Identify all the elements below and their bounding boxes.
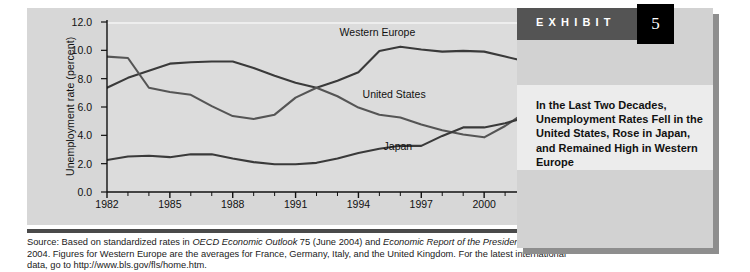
exhibit-number: 5 — [637, 4, 674, 44]
source-mid-1: 75 (June 2004) and — [297, 237, 383, 247]
chart-panel: Unemployment rate (percent) 12.010.08.06… — [27, 8, 580, 225]
series-line-japan — [107, 118, 547, 165]
plot-area: Western EuropeUnited StatesJapan — [107, 22, 549, 194]
y-tick-label: 8.0 — [77, 73, 92, 85]
series-label-japan: Japan — [384, 140, 413, 152]
y-axis-ticks: 12.010.08.06.04.02.00.0 — [27, 8, 100, 192]
exhibit-number-box: 5 — [637, 4, 674, 44]
y-tick-label: 10.0 — [72, 44, 92, 56]
x-tick-label: 2000 — [472, 198, 495, 210]
line-chart-svg — [107, 24, 547, 194]
x-tick-label: 1985 — [158, 198, 181, 210]
source-italic-erp: Economic Report of the President — [383, 237, 522, 247]
exhibit-caption: In the Last Two Decades, Unemployment Ra… — [536, 98, 706, 169]
series-label-united-states: United States — [363, 88, 426, 100]
exhibit-label: EXHIBIT — [536, 16, 616, 28]
x-axis-ticks: 19821985198819911994199720002003 — [107, 198, 547, 212]
x-tick-label: 1982 — [95, 198, 118, 210]
exhibit-figure-page: Unemployment rate (percent) 12.010.08.06… — [0, 0, 750, 272]
source-prefix: Source: Based on standardized rates in — [27, 237, 192, 247]
y-tick-label: 12.0 — [72, 16, 92, 28]
source-italic-oecd: OECD Economic Outlook — [192, 237, 297, 247]
x-tick-label: 1997 — [410, 198, 433, 210]
x-tick-label: 1991 — [284, 198, 307, 210]
series-label-western-europe: Western Europe — [340, 26, 416, 38]
y-tick-label: 4.0 — [77, 129, 92, 141]
y-tick-label: 0.0 — [77, 186, 92, 198]
divider-rule — [27, 229, 580, 233]
x-tick-label: 1994 — [347, 198, 370, 210]
series-line-united-states — [107, 57, 547, 138]
x-tick-label: 1988 — [221, 198, 244, 210]
series-line-western-europe — [107, 47, 547, 88]
source-note: Source: Based on standardized rates in O… — [27, 237, 587, 272]
y-tick-label: 6.0 — [77, 101, 92, 113]
y-tick-label: 2.0 — [77, 158, 92, 170]
